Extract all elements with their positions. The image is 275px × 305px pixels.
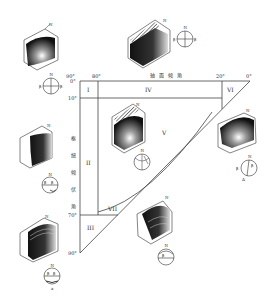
region-I: I [87,86,90,93]
y-tick-70: 70° [68,212,77,218]
fold-block-middle-left: N [20,123,52,168]
region-VI: VI [226,86,234,93]
north-label: N [47,123,51,128]
stereonet-top-center: N β β [173,25,197,47]
stereonet-bottom-left: N β β a [44,263,60,291]
fold-block-region-V: N [112,102,145,153]
stereonet-middle-right: N β β A [236,154,257,182]
region-III: III [87,224,95,231]
x-tick-0: 0° [246,73,252,79]
fold-classification-diagram: 90° 80° 20° 0° 0° 10° 70° 90° 轴面倾角 枢 纽 倾… [0,0,275,305]
fold-block-bottom-left: N [20,214,58,262]
y-axis-title-char-5: 角 [71,203,76,210]
beta-label: β [194,37,197,42]
y-axis-title-char-1: 枢 [71,135,76,142]
stereonet-region-V: N [134,148,150,170]
axis-A-label: A [241,177,245,182]
stereonet-top-left: N β β [39,72,63,94]
y-axis-title-char-2: 纽 [71,152,76,158]
y-axis-title-char-4: 伏 [71,186,76,193]
north-label: N [49,22,53,27]
beta-label: β [236,166,239,171]
x-tick-20: 20° [216,73,225,79]
stereonet-north: N [184,25,188,30]
fold-block-top-center: N [128,18,170,68]
north-label: N [163,18,167,23]
stereonet-north: N [49,172,53,177]
fold-block-middle-right: N [218,108,256,153]
beta-label: β [39,84,42,89]
region-IV: IV [145,86,152,93]
north-label: N [246,108,250,113]
fold-block-top-left: N [24,22,58,70]
region-VII: VII [107,205,118,212]
x-tick-80: 80° [92,73,101,79]
y-axis-title-char-3: 倾 [71,169,76,176]
north-label: N [45,214,49,219]
region-V: V [161,129,167,136]
y-tick-90: 90° [68,250,77,256]
beta-label: β [60,84,63,89]
fold-block-bottom-center: N [137,195,172,244]
north-label: N [165,195,169,200]
north-label: N [136,102,140,107]
axis-a-label: a [51,286,54,291]
region-II: II [86,159,91,166]
beta-label: β [173,37,176,42]
y-tick-10: 10° [68,95,77,101]
x-axis-title: 轴面倾角 [150,72,186,79]
y-tick-0: 0° [70,78,76,84]
stereonet-north: N [165,243,169,248]
stereonet-bottom-center: N β [158,243,174,265]
stereonet-north: N [141,148,145,153]
stereonet-north: N [248,154,252,159]
stereonet-north: N [50,72,54,77]
stereonet-north: N [51,263,55,268]
stereonet-middle-left: N β β [42,172,58,193]
